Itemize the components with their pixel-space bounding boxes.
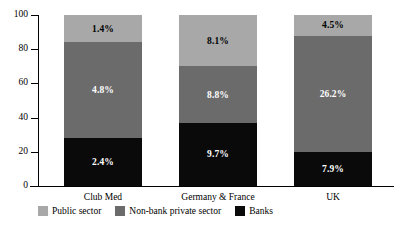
bar-segment-banks[interactable]: 7.9% xyxy=(294,152,372,186)
y-tick-label: 0 xyxy=(23,179,28,192)
legend-item-banks[interactable]: Banks xyxy=(235,206,273,216)
y-tick-mark xyxy=(31,118,38,119)
y-tick-mark xyxy=(31,15,38,16)
y-axis-line xyxy=(38,15,39,186)
chart-container: 100 80 60 40 20 0 1.4% 4.8% xyxy=(0,0,403,242)
legend-item-public-sector[interactable]: Public sector xyxy=(38,206,101,216)
bar-club-med[interactable]: 1.4% 4.8% 2.4% xyxy=(64,15,142,186)
segment-value-label: 8.8% xyxy=(207,90,229,100)
x-axis-label-uk: UK xyxy=(274,192,392,202)
bar-segment-public-sector[interactable]: 8.1% xyxy=(179,15,257,66)
x-axis-label-germany-and-france: Germany & France xyxy=(159,192,277,202)
segment-value-label: 4.5% xyxy=(322,20,344,30)
bar-segment-non-bank-private-sector[interactable]: 4.8% xyxy=(64,42,142,138)
y-tick-label: 40 xyxy=(19,111,29,124)
bar-segment-public-sector[interactable]: 4.5% xyxy=(294,15,372,36)
y-tick-mark xyxy=(31,83,38,84)
y-tick-mark xyxy=(31,152,38,153)
bar-segment-non-bank-private-sector[interactable]: 8.8% xyxy=(179,66,257,122)
plot-area: 100 80 60 40 20 0 1.4% 4.8% xyxy=(38,15,394,186)
segment-value-label: 7.9% xyxy=(322,164,344,174)
legend-item-non-bank-private-sector[interactable]: Non-bank private sector xyxy=(115,206,221,216)
legend-swatch-icon xyxy=(235,206,245,216)
segment-value-label: 8.1% xyxy=(207,36,229,46)
bar-uk[interactable]: 4.5% 26.2% 7.9% xyxy=(294,15,372,186)
bar-germany-and-france[interactable]: 8.1% 8.8% 9.7% xyxy=(179,15,257,186)
legend-item-label: Banks xyxy=(249,206,273,216)
x-axis-line xyxy=(30,186,394,187)
y-tick-40: 40 xyxy=(31,118,38,119)
y-tick-80: 80 xyxy=(31,49,38,50)
segment-value-label: 1.4% xyxy=(92,24,114,34)
bar-segment-public-sector[interactable]: 1.4% xyxy=(64,15,142,42)
y-tick-label: 20 xyxy=(19,145,29,158)
y-tick-0: 0 xyxy=(31,186,38,187)
bar-segment-non-bank-private-sector[interactable]: 26.2% xyxy=(294,36,372,152)
segment-value-label: 2.4% xyxy=(92,157,114,167)
y-tick-mark xyxy=(31,49,38,50)
segment-value-label: 9.7% xyxy=(207,149,229,159)
y-tick-label: 80 xyxy=(19,42,29,55)
y-tick-label: 60 xyxy=(19,76,29,89)
legend-item-label: Non-bank private sector xyxy=(129,206,221,216)
bar-segment-banks[interactable]: 2.4% xyxy=(64,138,142,186)
y-tick-100: 100 xyxy=(31,15,38,16)
y-tick-mark xyxy=(31,186,38,187)
y-tick-20: 20 xyxy=(31,152,38,153)
legend-item-label: Public sector xyxy=(52,206,101,216)
legend-swatch-icon xyxy=(38,206,48,216)
legend: Public sector Non-bank private sector Ba… xyxy=(38,206,273,216)
segment-value-label: 26.2% xyxy=(320,89,347,99)
y-tick-label: 100 xyxy=(14,8,28,21)
bar-segment-banks[interactable]: 9.7% xyxy=(179,123,257,186)
x-axis-label-club-med: Club Med xyxy=(44,192,162,202)
y-tick-60: 60 xyxy=(31,83,38,84)
segment-value-label: 4.8% xyxy=(92,85,114,95)
legend-swatch-icon xyxy=(115,206,125,216)
